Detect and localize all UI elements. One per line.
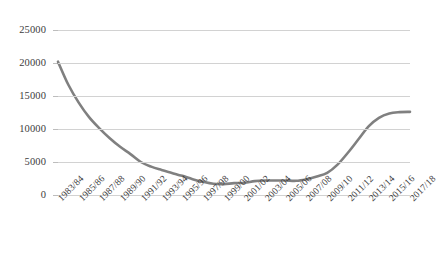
- y-tick-label: 25000: [0, 25, 46, 35]
- x-axis: 1983/841985/861987/881989/901991/921993/…: [58, 196, 418, 255]
- plot-area: [58, 30, 410, 195]
- series-line: [58, 30, 410, 195]
- y-axis: 2500020000150001000050000: [0, 0, 54, 255]
- y-tick-label: 10000: [0, 124, 46, 134]
- gridline: [58, 30, 410, 31]
- y-tick-label: 5000: [0, 157, 46, 167]
- y-tick-label: 15000: [0, 91, 46, 101]
- gridline: [58, 96, 410, 97]
- gridline: [58, 162, 410, 163]
- y-tick-label: 0: [0, 190, 46, 200]
- gridline: [58, 63, 410, 64]
- y-tick-label: 20000: [0, 58, 46, 68]
- gridline: [58, 129, 410, 130]
